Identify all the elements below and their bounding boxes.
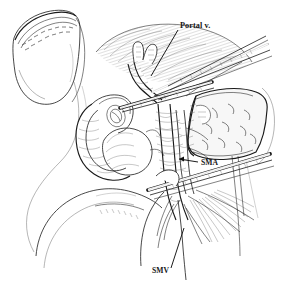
- label-portal-vein: Portal v.: [180, 21, 210, 30]
- surgical-illustration-figure: Portal v. SMA SMV: [0, 0, 281, 284]
- label-sma: SMA: [201, 158, 219, 167]
- illustration-canvas: Portal v. SMA SMV: [0, 0, 281, 284]
- label-smv: SMV: [152, 266, 170, 275]
